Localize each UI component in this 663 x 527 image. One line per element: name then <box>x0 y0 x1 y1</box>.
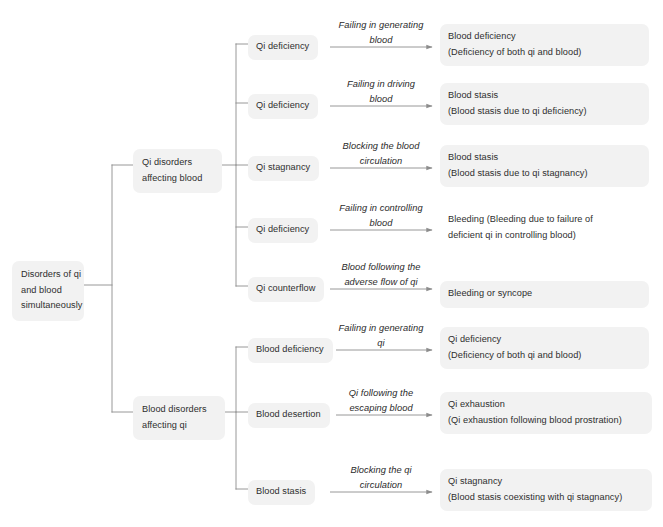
cause-label: Blood deficiency <box>256 344 324 354</box>
cause-label: Qi deficiency <box>256 224 309 234</box>
edge-label-line-1: Blocking the qi <box>326 463 436 478</box>
edge-label-line-2: qi <box>326 336 436 351</box>
result-line-2: (Qi exhaustion following blood prostrati… <box>448 413 642 429</box>
cause-node[interactable]: Blood stasis <box>248 480 315 505</box>
edge-label-line-2: blood <box>326 92 436 107</box>
cause-node[interactable]: Blood desertion <box>248 403 330 428</box>
result-line-1: Blood stasis <box>448 150 639 166</box>
result-line-2: (Deficiency of both qi and blood) <box>448 348 639 364</box>
cause-node[interactable]: Qi deficiency <box>248 94 318 119</box>
branch-label-line-2: affecting blood <box>142 171 213 187</box>
edge-label-line-2: circulation <box>326 154 436 169</box>
result-node[interactable]: Qi deficiency (Deficiency of both qi and… <box>440 327 649 369</box>
branch-node-blood-disorders-affecting-qi[interactable]: Blood disorders affecting qi <box>133 396 225 440</box>
root-node-line-3: simultaneously <box>21 298 75 314</box>
cause-label: Qi deficiency <box>256 100 309 110</box>
cause-node[interactable]: Qi stagnancy <box>248 156 319 181</box>
edge-label: Blocking the qi circulation <box>326 463 436 492</box>
edge-label-line-1: Blood following the <box>326 260 436 275</box>
result-line-2: (Blood stasis due to qi deficiency) <box>448 104 639 120</box>
edge-label: Failing in driving blood <box>326 77 436 106</box>
cause-label: Blood stasis <box>256 486 306 496</box>
cause-node[interactable]: Qi deficiency <box>248 35 318 60</box>
result-node[interactable]: Qi stagnancy (Blood stasis coexisting wi… <box>440 469 652 511</box>
branch-label-line-2: affecting qi <box>142 418 216 434</box>
branch-node-qi-disorders-affecting-blood[interactable]: Qi disorders affecting blood <box>133 149 222 193</box>
edge-label-line-2: blood <box>326 216 436 231</box>
result-node[interactable]: Blood stasis (Blood stasis due to qi sta… <box>440 145 649 187</box>
result-line-1: Blood stasis <box>448 88 639 104</box>
result-line-2: (Deficiency of both qi and blood) <box>448 45 639 61</box>
result-line-1: Qi exhaustion <box>448 397 642 413</box>
branch-label-line-1: Qi disorders <box>142 155 213 171</box>
edge-label-line-1: Failing in driving <box>326 77 436 92</box>
edge-label-line-1: Qi following the <box>326 386 436 401</box>
cause-label: Blood desertion <box>256 409 321 419</box>
edge-label: Failing in generating qi <box>326 321 436 350</box>
edge-label: Blocking the blood circulation <box>326 139 436 168</box>
edge-label: Failing in generating blood <box>326 18 436 47</box>
root-node-line-1: Disorders of qi <box>21 267 75 283</box>
edge-label: Failing in controlling blood <box>326 201 436 230</box>
result-line-2: deficient qi in controlling blood) <box>448 228 639 244</box>
edge-label-line-1: Blocking the blood <box>326 139 436 154</box>
result-node[interactable]: Bleeding (Bleeding due to failure of def… <box>440 207 649 249</box>
edge-label: Blood following the adverse flow of qi <box>326 260 436 289</box>
result-node[interactable]: Blood deficiency (Deficiency of both qi … <box>440 24 649 66</box>
edge-label-line-2: adverse flow of qi <box>326 275 436 290</box>
result-line-1: Bleeding or syncope <box>448 286 639 302</box>
result-line-1: Blood deficiency <box>448 29 639 45</box>
root-node-line-2: and blood <box>21 283 75 299</box>
edge-label-line-2: blood <box>326 33 436 48</box>
edge-label-line-2: escaping blood <box>326 401 436 416</box>
edge-label: Qi following the escaping blood <box>326 386 436 415</box>
cause-label: Qi stagnancy <box>256 162 310 172</box>
edge-label-line-1: Failing in controlling <box>326 201 436 216</box>
result-node[interactable]: Bleeding or syncope <box>440 281 649 308</box>
edge-label-line-1: Failing in generating <box>326 18 436 33</box>
result-node[interactable]: Blood stasis (Blood stasis due to qi def… <box>440 83 649 125</box>
cause-node[interactable]: Blood deficiency <box>248 338 333 363</box>
result-line-1: Qi deficiency <box>448 332 639 348</box>
cause-node[interactable]: Qi deficiency <box>248 218 318 243</box>
branch-label-line-1: Blood disorders <box>142 402 216 418</box>
result-line-1: Bleeding (Bleeding due to failure of <box>448 212 639 228</box>
result-line-2: (Blood stasis coexisting with qi stagnan… <box>448 490 642 506</box>
result-node[interactable]: Qi exhaustion (Qi exhaustion following b… <box>440 392 652 434</box>
result-line-1: Qi stagnancy <box>448 474 642 490</box>
qi-blood-disorders-diagram: Disorders of qi and blood simultaneously… <box>0 0 663 527</box>
cause-node[interactable]: Qi counterflow <box>248 277 324 302</box>
cause-label: Qi deficiency <box>256 41 309 51</box>
cause-label: Qi counterflow <box>256 283 315 293</box>
edge-label-line-1: Failing in generating <box>326 321 436 336</box>
edge-label-line-2: circulation <box>326 478 436 493</box>
root-node[interactable]: Disorders of qi and blood simultaneously <box>12 261 84 321</box>
result-line-2: (Blood stasis due to qi stagnancy) <box>448 166 639 182</box>
